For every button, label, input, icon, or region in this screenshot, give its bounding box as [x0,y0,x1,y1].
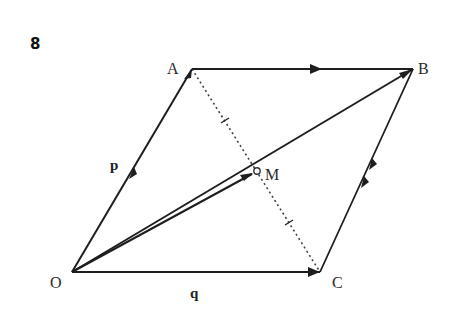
label-c: C [332,274,343,291]
segment-cb [320,69,413,272]
arrow-head-ab [310,64,322,74]
tick-mark-am [221,118,229,123]
label-a: A [167,60,179,77]
diagonal-ob [72,69,413,272]
tick-mark-mc [285,220,293,225]
parallelogram-vector-diagram: 8 A B M O C p q [0,0,453,309]
label-b: B [418,60,429,77]
label-vector-p: p [110,157,118,173]
arrow-head-oa-upper [184,69,192,79]
label-m: M [265,166,279,183]
label-o: O [50,274,62,291]
point-m-marker [254,168,260,174]
question-number: 8 [30,35,40,53]
label-vector-q: q [190,285,199,301]
vector-om [72,174,252,272]
